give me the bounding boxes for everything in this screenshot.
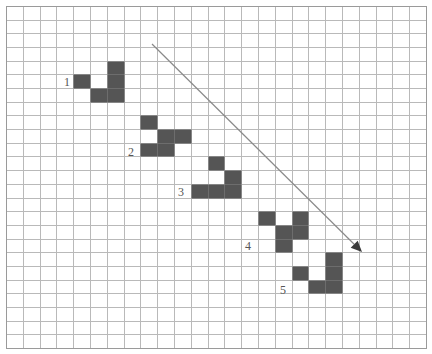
glider-grid-diagram: 12345	[0, 0, 432, 354]
filled-cell	[74, 75, 91, 89]
filled-cell	[276, 226, 293, 240]
shape-5	[293, 253, 343, 294]
filled-cell	[259, 212, 276, 226]
filled-cell	[175, 130, 192, 144]
filled-cell	[158, 144, 175, 157]
filled-cell	[309, 281, 326, 294]
filled-cell	[326, 253, 343, 267]
filled-cell	[141, 116, 158, 130]
filled-cell	[225, 185, 242, 199]
direction-arrow	[152, 44, 362, 252]
shape-4	[259, 212, 309, 253]
shape-label-1: 1	[64, 75, 70, 89]
filled-cell	[293, 267, 309, 281]
filled-cell	[141, 144, 158, 157]
shape-label-2: 2	[128, 145, 134, 159]
filled-cell	[326, 267, 343, 281]
shape-label-5: 5	[280, 283, 286, 297]
shape-label-3: 3	[178, 185, 184, 199]
shape-label-4: 4	[245, 239, 251, 253]
filled-cell	[293, 212, 309, 226]
filled-cell	[91, 89, 108, 103]
filled-cell	[209, 185, 225, 199]
filled-cell	[108, 75, 125, 89]
filled-cell	[225, 171, 242, 185]
filled-cell	[108, 89, 125, 103]
filled-cell	[108, 62, 125, 75]
grid-border	[7, 7, 427, 349]
grid-lines	[6, 6, 427, 349]
filled-cell	[276, 240, 293, 253]
filled-cell	[209, 157, 225, 171]
shape-1	[74, 62, 125, 103]
filled-cell	[293, 226, 309, 240]
shape-3	[192, 157, 242, 199]
filled-cell	[192, 185, 209, 199]
filled-cell	[158, 130, 175, 144]
filled-cell	[326, 281, 343, 294]
shape-2	[141, 116, 192, 157]
